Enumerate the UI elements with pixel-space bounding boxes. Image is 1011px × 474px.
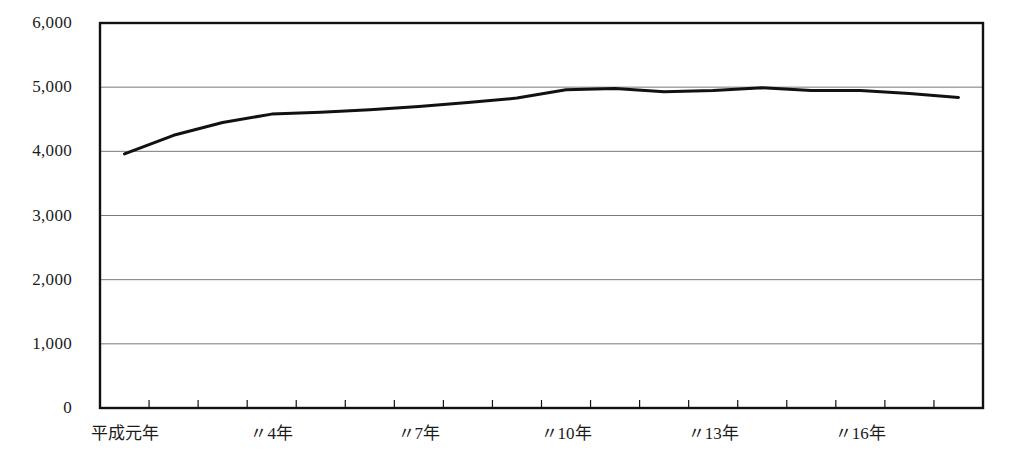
x-axis-tick-labels: 平成元年〃4年〃7年〃10年〃13年〃16年: [0, 0, 1011, 474]
x-axis-tick-label: 平成元年: [91, 424, 159, 443]
line-chart: 01,0002,0003,0004,0005,0006,000 平成元年〃4年〃…: [0, 0, 1011, 474]
x-axis-tick-label: 〃10年: [541, 424, 592, 443]
x-axis-tick-label: 〃16年: [835, 424, 886, 443]
x-axis-tick-label: 〃4年: [250, 424, 293, 443]
x-axis-tick-label: 〃13年: [688, 424, 739, 443]
x-axis-tick-label: 〃7年: [398, 424, 441, 443]
